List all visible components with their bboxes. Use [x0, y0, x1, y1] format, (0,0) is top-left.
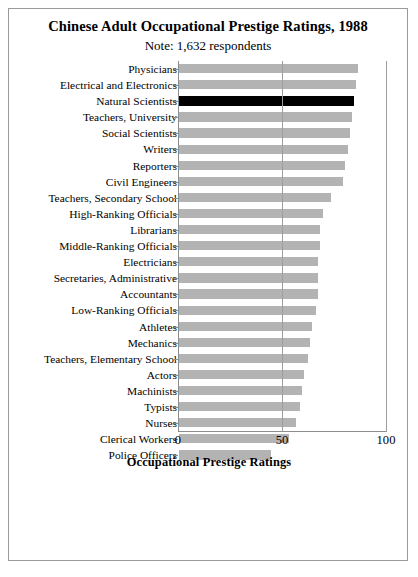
- bar-row: [178, 335, 398, 351]
- bar-series: [178, 61, 398, 463]
- category-label: Nurses: [9, 415, 177, 431]
- bar-row: [178, 367, 398, 383]
- bar-row: [178, 141, 398, 157]
- bar: [179, 418, 296, 427]
- category-axis-labels: PhysiciansElectrical and ElectronicsNatu…: [9, 61, 177, 463]
- category-label: Athletes: [9, 319, 177, 335]
- bar-row: [178, 61, 398, 77]
- category-label: Teachers, University: [9, 109, 177, 125]
- category-label: Electricians: [9, 254, 177, 270]
- category-tick: [174, 423, 178, 424]
- bar-row: [178, 319, 398, 335]
- category-tick: [174, 214, 178, 215]
- bar: [179, 386, 302, 395]
- category-label: Natural Scientists: [9, 93, 177, 109]
- bar: [179, 257, 318, 266]
- bar-row: [178, 206, 398, 222]
- bar: [179, 193, 331, 202]
- category-label: Physicians: [9, 61, 177, 77]
- category-label: Writers: [9, 141, 177, 157]
- x-axis-tick-labels: 050100: [178, 433, 398, 451]
- bar: [179, 306, 316, 315]
- bar-row: [178, 174, 398, 190]
- category-tick: [174, 278, 178, 279]
- page-title: Chinese Adult Occupational Prestige Rati…: [9, 18, 407, 35]
- category-label: Teachers, Elementary School: [9, 351, 177, 367]
- category-label: Secretaries, Administrative: [9, 270, 177, 286]
- category-tick: [174, 310, 178, 311]
- bar-row: [178, 383, 398, 399]
- bar-row: [178, 254, 398, 270]
- category-tick: [174, 294, 178, 295]
- category-tick: [174, 149, 178, 150]
- chart-subtitle: Note: 1,632 respondents: [9, 35, 407, 55]
- category-label: Clerical Workers: [9, 431, 177, 447]
- category-label: Electrical and Electronics: [9, 77, 177, 93]
- bar-row: [178, 415, 398, 431]
- bar: [179, 370, 304, 379]
- bar-row: [178, 399, 398, 415]
- bar: [179, 80, 356, 89]
- bar-row: [178, 77, 398, 93]
- bar: [179, 112, 352, 121]
- chart-figure: Chinese Adult Occupational Prestige Rati…: [8, 8, 408, 561]
- category-label: Mechanics: [9, 335, 177, 351]
- category-tick: [174, 198, 178, 199]
- bar: [179, 241, 320, 250]
- bar: [179, 177, 343, 186]
- bar-row: [178, 109, 398, 125]
- category-tick: [174, 166, 178, 167]
- x-tick-label: 50: [276, 433, 289, 448]
- category-tick: [174, 327, 178, 328]
- bar-row: [178, 93, 398, 109]
- category-label: Middle-Ranking Officials: [9, 238, 177, 254]
- category-tick: [174, 375, 178, 376]
- bar-row: [178, 125, 398, 141]
- bar: [179, 338, 310, 347]
- category-tick: [174, 391, 178, 392]
- category-tick: [174, 230, 178, 231]
- category-tick: [174, 246, 178, 247]
- gridline: [386, 61, 387, 432]
- category-label: Actors: [9, 367, 177, 383]
- category-tick: [174, 133, 178, 134]
- bar: [179, 289, 318, 298]
- gridline: [282, 61, 283, 432]
- x-axis-title: Occupational Prestige Ratings: [9, 455, 409, 470]
- category-label: Teachers, Secondary School: [9, 190, 177, 206]
- x-tick-label: 100: [377, 433, 396, 448]
- category-label: Librarians: [9, 222, 177, 238]
- plot-area: [178, 61, 398, 432]
- category-label: Low-Ranking Officials: [9, 302, 177, 318]
- bar-row: [178, 286, 398, 302]
- bar-row: [178, 158, 398, 174]
- bar: [179, 322, 312, 331]
- category-tick: [174, 85, 178, 86]
- bar: [179, 128, 350, 137]
- plot-wrap: PhysiciansElectrical and ElectronicsNatu…: [9, 61, 407, 461]
- category-tick: [174, 343, 178, 344]
- category-tick: [174, 69, 178, 70]
- bar-row: [178, 238, 398, 254]
- category-label: Civil Engineers: [9, 174, 177, 190]
- category-tick: [174, 117, 178, 118]
- bar-row: [178, 190, 398, 206]
- category-label: High-Ranking Officials: [9, 206, 177, 222]
- category-label: Reporters: [9, 158, 177, 174]
- bar: [179, 145, 348, 154]
- category-label: Machinists: [9, 383, 177, 399]
- category-label: Social Scientists: [9, 125, 177, 141]
- bar: [179, 64, 358, 73]
- x-tick-label: 0: [175, 433, 181, 448]
- bar-row: [178, 222, 398, 238]
- bar: [179, 354, 308, 363]
- category-label: Typists: [9, 399, 177, 415]
- category-tick: [174, 182, 178, 183]
- category-tick: [174, 407, 178, 408]
- bar: [179, 273, 318, 282]
- category-label: Accountants: [9, 286, 177, 302]
- bar-row: [178, 351, 398, 367]
- category-tick: [174, 359, 178, 360]
- category-tick: [174, 101, 178, 102]
- bar: [179, 161, 345, 170]
